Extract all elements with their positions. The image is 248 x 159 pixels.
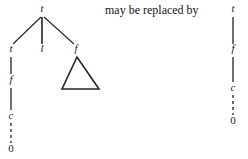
edge-root-to-child-f: [44, 17, 74, 44]
left-tree-child-l-label: l: [36, 43, 48, 54]
right-chain-zero-label: 0: [227, 115, 239, 126]
right-chain-f-label: f: [227, 43, 239, 54]
left-tree-child-t-label: t: [5, 43, 17, 54]
edge-root-to-child-t: [13, 17, 41, 44]
left-chain-c-label: c: [5, 110, 17, 121]
left-tree-root-label: t: [36, 3, 48, 14]
tree-edges-layer: [0, 0, 248, 159]
figure-canvas: t t l f f c 0 may be replaced by t f c 0: [0, 0, 248, 159]
left-tree-child-f-label: f: [70, 43, 82, 54]
right-chain-t-label: t: [227, 3, 239, 14]
replacement-phrase: may be replaced by: [105, 4, 199, 16]
left-chain-f-label: f: [5, 74, 17, 85]
left-chain-zero-label: 0: [5, 143, 17, 154]
right-chain-c-label: c: [227, 82, 239, 93]
subtree-triangle: [62, 57, 99, 89]
